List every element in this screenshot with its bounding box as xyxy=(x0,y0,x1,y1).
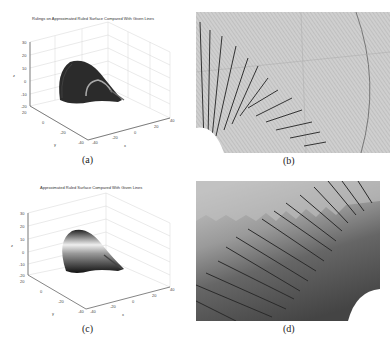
y-tick: 20 xyxy=(22,110,26,115)
x-tick: -20 xyxy=(112,135,118,140)
figure-b-caption: (b) xyxy=(283,155,295,166)
z-tick: 30 xyxy=(22,40,26,45)
z-tick: -10 xyxy=(19,262,25,267)
x-tick: 0 xyxy=(132,299,134,304)
x-tick: -20 xyxy=(110,304,116,309)
y-tick: 0 xyxy=(42,120,44,125)
x-label: x xyxy=(124,143,126,148)
figure-a: Rulings on Approximated Ruled Surface Co… xyxy=(0,0,190,170)
x-tick: -40 xyxy=(92,140,98,145)
z-tick: -10 xyxy=(21,92,27,97)
y-tick: -20 xyxy=(58,299,64,304)
y-tick: 20 xyxy=(20,279,24,284)
x-tick: 20 xyxy=(152,293,156,298)
x-tick: 40 xyxy=(170,287,174,292)
figure-d-caption: (d) xyxy=(283,323,295,334)
z-tick: 20 xyxy=(20,224,24,229)
y-label: y xyxy=(52,311,54,316)
z-tick: -20 xyxy=(21,104,27,109)
z-tick: 0 xyxy=(24,79,26,84)
z-tick: 10 xyxy=(22,66,26,71)
figure-a-caption: (a) xyxy=(82,154,93,165)
figure-c-caption: (c) xyxy=(82,323,93,334)
z-label: z xyxy=(11,243,13,248)
figure-d-plot xyxy=(196,181,380,321)
y-tick: -40 xyxy=(78,309,84,314)
y-tick: -20 xyxy=(60,130,66,135)
figure-b-plot xyxy=(196,12,390,153)
x-tick: 20 xyxy=(154,124,158,129)
x-tick: -40 xyxy=(90,309,96,314)
z-label: z xyxy=(13,73,15,78)
z-tick: 30 xyxy=(20,211,24,216)
x-tick: 0 xyxy=(134,130,136,135)
figure-c-plot xyxy=(0,175,190,320)
x-label: x xyxy=(122,312,124,317)
y-tick: -40 xyxy=(78,140,84,145)
z-tick: 0 xyxy=(22,250,24,255)
z-tick: -20 xyxy=(19,273,25,278)
figure-c: Approximated Ruled Surface Compared With… xyxy=(0,175,190,320)
z-tick: 10 xyxy=(20,237,24,242)
figure-d xyxy=(196,181,380,321)
z-tick: 20 xyxy=(22,53,26,58)
figure-b xyxy=(196,12,390,153)
x-tick: 40 xyxy=(170,118,174,123)
y-label: y xyxy=(54,142,56,147)
y-tick: 0 xyxy=(40,289,42,294)
